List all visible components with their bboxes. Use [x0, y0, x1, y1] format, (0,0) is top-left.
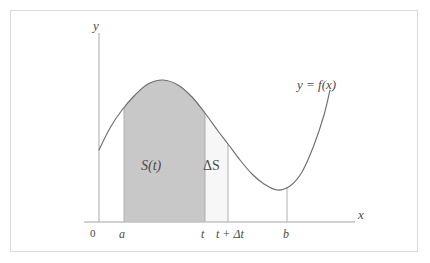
- figure-container: y x 0 a t t + Δt b S(t) ΔS y = f(x): [0, 0, 430, 263]
- region-label-st: S(t): [141, 159, 161, 173]
- region-label-delta-s: ΔS: [203, 159, 220, 173]
- region-st-fill: [124, 80, 205, 222]
- plot-canvas: [0, 0, 430, 263]
- tick-label-b: b: [283, 228, 289, 240]
- tick-label-a: a: [119, 228, 125, 240]
- function-label: y = f(x): [297, 78, 336, 91]
- tick-label-t-plus-delta-t: t + Δt: [216, 228, 244, 240]
- origin-label: 0: [90, 228, 96, 239]
- tick-label-t: t: [201, 228, 204, 240]
- y-axis-label: y: [93, 19, 99, 32]
- x-axis-label: x: [358, 208, 364, 221]
